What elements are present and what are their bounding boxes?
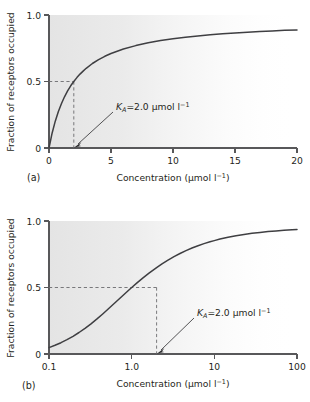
annotation-unit-exponent-b: −1 <box>261 307 270 315</box>
x-tick-label-a-0: 0 <box>46 155 52 166</box>
x-axis-title-exponent-a: −1 <box>216 172 225 180</box>
x-tick-label-a-20: 20 <box>291 155 303 166</box>
x-axis-title-tail-a: ) <box>226 172 230 183</box>
y-tick-label-a-05: 0.5 <box>26 76 41 87</box>
y-axis-title-a: Fraction of receptors occupied <box>5 12 16 151</box>
x-axis-title-a: Concentration (μmol l−1) <box>117 172 230 183</box>
x-tick-label-b-10: 10 <box>208 361 220 372</box>
x-tick-label-a-5: 5 <box>108 155 114 166</box>
chart-panel-a: 0 0.5 1.0 0 5 10 15 20 KA=2.0 μmol l−1 C… <box>0 0 310 200</box>
x-axis-title-tail-b: ) <box>226 378 230 389</box>
y-tick-label-a-0: 0 <box>35 143 41 154</box>
x-axis-title-exponent-b: −1 <box>216 378 225 386</box>
panel-label-a: (a) <box>27 172 40 183</box>
x-tick-label-b-01: 0.1 <box>42 361 57 372</box>
chart-a-svg: 0 0.5 1.0 0 5 10 15 20 KA=2.0 μmol l−1 C… <box>0 0 310 200</box>
x-tick-label-b-100: 100 <box>288 361 306 372</box>
plot-shade-a <box>49 15 297 148</box>
x-axis-title-main-b: Concentration (μmol l <box>117 378 217 389</box>
x-tick-label-b-1: 1.0 <box>124 361 139 372</box>
annotation-unit-a: μmol l <box>149 101 180 112</box>
annotation-unit-b: μmol l <box>230 307 261 318</box>
y-axis-title-b: Fraction of receptors occupied <box>5 218 16 357</box>
x-axis-title-b: Concentration (μmol l−1) <box>117 378 230 389</box>
panel-label-b: (b) <box>22 380 36 391</box>
figure-receptor-occupancy: 0 0.5 1.0 0 5 10 15 20 KA=2.0 μmol l−1 C… <box>0 0 310 402</box>
x-tick-label-a-10: 10 <box>167 155 179 166</box>
y-tick-label-a-10: 1.0 <box>26 10 41 21</box>
x-axis-title-main-a: Concentration (μmol l <box>117 172 217 183</box>
x-tick-label-a-15: 15 <box>229 155 241 166</box>
annotation-unit-exponent-a: −1 <box>180 101 189 109</box>
chart-b-svg: 0 0.5 1.0 0.1 1.0 10 100 KA=2.0 μmol l−1… <box>0 196 310 402</box>
annotation-value-b: =2.0 <box>207 307 229 318</box>
y-tick-label-b-10: 1.0 <box>26 216 41 227</box>
y-tick-label-b-05: 0.5 <box>26 282 41 293</box>
y-tick-label-b-0: 0 <box>35 349 41 360</box>
annotation-value-a: =2.0 <box>126 101 148 112</box>
chart-panel-b: 0 0.5 1.0 0.1 1.0 10 100 KA=2.0 μmol l−1… <box>0 196 310 402</box>
